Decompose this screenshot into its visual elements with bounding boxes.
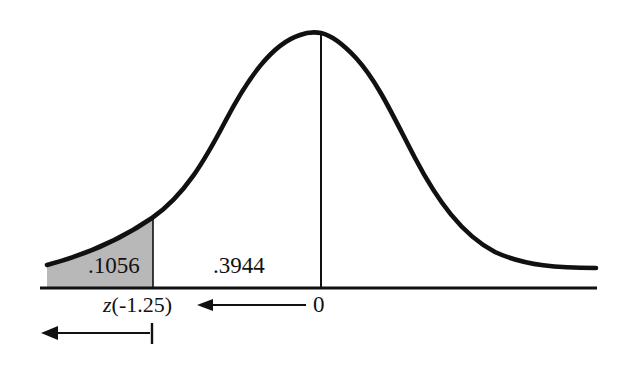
normal-distribution-figure: .1056 .3944 0 z(-1.25) (0, 0, 627, 368)
unshaded-area-label: .3944 (213, 254, 265, 277)
z-cutoff-label: z(-1.25) (103, 294, 172, 316)
tail-extent-arrow-head (41, 326, 58, 340)
z-value-text: (-1.25) (112, 292, 172, 317)
shaded-area-label: .1056 (88, 254, 140, 277)
mean-to-z-arrow-head (197, 299, 213, 311)
z-variable-symbol: z (103, 292, 112, 317)
mean-label: 0 (313, 293, 325, 316)
